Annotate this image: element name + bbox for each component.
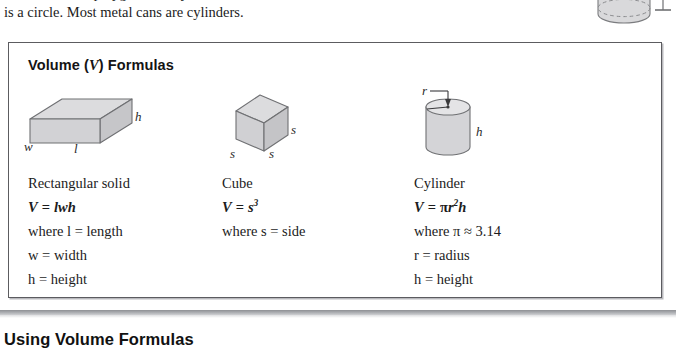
figure-label-l: l [74,141,78,157]
formula-height: h [458,199,466,215]
formula-column-cylinder: r h Cylinder V=πr2h where π ≈ 3.14 r = r… [414,91,644,291]
volume-formulas-box: Volume (V) Formulas h l w Rectangular so… [8,42,662,298]
cylinder-illustration-top [586,0,676,32]
definition-height: h = height [28,267,218,291]
cylinder-figure: r h [414,91,644,163]
intro-paragraph: of the base is a polygon. In a cylinder … [4,0,564,22]
solid-formula: V=lwh [28,195,218,219]
formula-column-rectangular-solid: h l w Rectangular solid V=lwh where l = … [28,91,218,291]
cube-icon [222,91,332,163]
figure-label-w: w [24,139,33,155]
rectangular-solid-icon [28,91,158,163]
formula-pi: π [440,199,448,215]
figure-label-r: r [422,83,427,99]
cylinder-icon [414,81,534,167]
formula-equals: = [42,199,50,215]
cylinder-text: Cylinder V=πr2h where π ≈ 3.14 r = radiu… [414,171,644,291]
cube-name: Cube [222,171,412,195]
formula-lhs: V [222,199,232,215]
height-dimension-line-icon [650,0,676,32]
intro-line: is a circle. Most metal cans are cylinde… [4,3,564,22]
cube-text: Cube V=s3 where s = side [222,171,412,243]
formula-exponent: 3 [254,198,259,208]
definition-length: where l = length [28,219,218,243]
box-title-prefix: Volume ( [28,57,89,73]
cylinder-formula: V=πr2h [414,195,644,219]
formula-equals: = [236,199,244,215]
definition-side: where s = side [222,219,412,243]
figure-label-h: h [476,124,483,140]
definition-height: h = height [414,267,644,291]
formula-column-cube: s s s Cube V=s3 where s = side [222,91,412,243]
figure-label-s-right: s [291,122,296,138]
figure-label-s-front: s [269,146,274,162]
rectangular-solid-text: Rectangular solid V=lwh where l = length… [28,171,218,291]
solid-name: Rectangular solid [28,171,218,195]
section-heading: Using Volume Formulas [4,330,194,349]
formula-lhs: V [414,199,424,215]
formula-rhs: lwh [54,199,76,215]
definition-pi: where π ≈ 3.14 [414,219,644,243]
box-title-variable: V [89,57,99,73]
definition-radius: r = radius [414,243,644,267]
cube-formula: V=s3 [222,195,412,219]
cylinder-name: Cylinder [414,171,644,195]
volume-formulas-box-title: Volume (V) Formulas [28,57,174,74]
rectangular-solid-figure: h l w [28,91,218,163]
figure-label-s-left: s [230,146,235,162]
section-divider-shadow [0,315,676,318]
definition-width: w = width [28,243,218,267]
formula-equals: = [428,199,436,215]
cube-figure: s s s [222,91,412,163]
figure-label-h: h [135,109,142,125]
formula-lhs: V [28,199,38,215]
box-title-suffix: ) Formulas [99,57,174,73]
